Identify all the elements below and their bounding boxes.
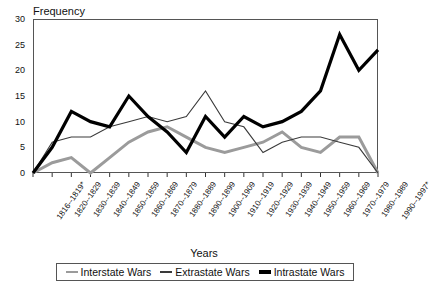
legend: Interstate WarsExtrastate WarsIntrastate… [56, 263, 354, 281]
legend-item[interactable]: Extrastate Wars [160, 266, 249, 278]
y-axis-tick-label: 15 [3, 91, 25, 101]
plot-area [33, 19, 378, 173]
x-axis-title: Years [0, 247, 408, 259]
legend-item[interactable]: Interstate Wars [66, 266, 152, 278]
legend-item-label: Intrastate Wars [274, 266, 345, 278]
legend-item-label: Extrastate Wars [175, 266, 249, 278]
legend-swatch-icon [66, 271, 78, 274]
y-axis-title: Frequency [33, 5, 85, 17]
legend-swatch-icon [160, 271, 172, 273]
y-axis-tick-label: 5 [3, 142, 25, 152]
y-axis-tick-label: 25 [3, 40, 25, 50]
legend-item-label: Interstate Wars [81, 266, 152, 278]
y-axis-tick-label: 10 [3, 117, 25, 127]
y-axis-tick-label: 30 [3, 14, 25, 24]
legend-item[interactable]: Intrastate Wars [259, 266, 345, 278]
y-axis-tick-label: 20 [3, 65, 25, 75]
y-axis-tick-label: 0 [3, 168, 25, 178]
legend-swatch-icon [259, 270, 271, 274]
